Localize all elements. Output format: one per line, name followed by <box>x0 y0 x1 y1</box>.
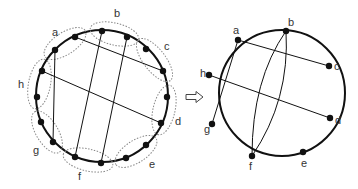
group-label-a: a <box>52 26 59 38</box>
group-label-b: b <box>114 7 120 19</box>
chord <box>75 37 163 71</box>
node-f <box>98 160 104 166</box>
node-label-c: c <box>334 60 340 72</box>
outer-circle <box>219 30 345 156</box>
group-label-c: c <box>164 40 170 52</box>
chord <box>75 31 102 157</box>
group-ellipse-d <box>148 83 181 137</box>
left-grouped-circle-diagram: abcdefgh <box>18 7 181 182</box>
group-label-f: f <box>78 170 82 182</box>
node-e <box>300 149 306 155</box>
node-label-h: h <box>200 67 206 79</box>
node-d <box>327 115 333 121</box>
node-g <box>50 139 56 145</box>
chord-h-d <box>209 75 330 118</box>
chord-a-g <box>212 40 238 124</box>
chord <box>53 50 55 142</box>
group-ellipse-h <box>24 57 55 111</box>
node-label-f: f <box>249 160 253 172</box>
node-c <box>326 63 332 69</box>
node-f <box>249 153 255 159</box>
node-d <box>164 94 170 100</box>
node-label-d: d <box>335 114 341 126</box>
node-c <box>143 46 149 52</box>
node-c <box>160 68 166 74</box>
group-ellipse-c <box>130 33 179 87</box>
node-label-e: e <box>301 157 307 169</box>
node-e <box>143 142 149 148</box>
node-b <box>124 34 130 40</box>
group-label-d: d <box>175 115 181 127</box>
node-a <box>52 47 58 53</box>
node-h <box>39 68 45 74</box>
graph-diagram: abcdefgh abcdefgh <box>0 0 358 189</box>
node-h <box>34 94 40 100</box>
chord-a-c <box>238 40 329 66</box>
node-label-b: b <box>288 16 294 28</box>
group-label-e: e <box>149 158 155 170</box>
group-label-h: h <box>18 78 24 90</box>
node-a <box>72 34 78 40</box>
node-label-a: a <box>233 24 240 36</box>
node-d <box>158 120 164 126</box>
node-f <box>72 154 78 160</box>
chord <box>101 37 127 163</box>
node-b <box>283 28 289 34</box>
transform-arrow-icon <box>186 92 203 103</box>
curved-chord-b-f <box>252 31 286 156</box>
node-h <box>206 72 212 78</box>
node-label-g: g <box>204 123 210 135</box>
node-g <box>38 119 44 125</box>
node-e <box>123 155 129 161</box>
node-b <box>99 28 105 34</box>
group-label-g: g <box>33 144 39 156</box>
curved-chord-b-f <box>252 31 286 156</box>
chord <box>42 71 161 123</box>
right-contracted-circle-diagram: abcdefgh <box>200 16 345 172</box>
node-a <box>235 37 241 43</box>
